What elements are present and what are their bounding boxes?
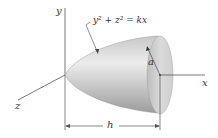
z-axis-line xyxy=(18,75,65,100)
length-label: h xyxy=(107,120,113,130)
y-axis-label: y xyxy=(56,6,62,16)
radius-label: a xyxy=(148,57,154,67)
length-arrowhead-right xyxy=(155,124,160,128)
paraboloid-diagram: y x z y² + z² = kx a h xyxy=(0,0,218,138)
x-axis-label: x xyxy=(202,78,208,88)
equation-label: y² + z² = kx xyxy=(93,16,147,25)
paraboloid-surface xyxy=(65,36,158,113)
length-arrowhead-left xyxy=(65,124,70,128)
equation-leader xyxy=(86,22,97,51)
z-axis-label: z xyxy=(15,101,20,111)
